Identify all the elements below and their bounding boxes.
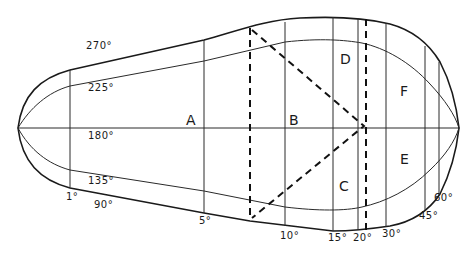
label-meridian-30: 30° xyxy=(382,229,401,239)
label-meridian-60: 60° xyxy=(434,193,453,203)
region-f-label: F xyxy=(400,84,408,98)
diagram-lines xyxy=(0,0,476,254)
label-meridian-20: 20° xyxy=(353,233,372,243)
polar-diagram: 270° 225° 180° 135° 90° 1° 5° 10° 15° 20… xyxy=(0,0,476,254)
region-b-label: B xyxy=(289,113,299,127)
inner-curve xyxy=(18,40,459,210)
region-e-label: E xyxy=(400,152,409,166)
label-meridian-10: 10° xyxy=(280,231,299,241)
label-meridian-15: 15° xyxy=(328,233,347,243)
label-90: 90° xyxy=(94,200,113,210)
label-135: 135° xyxy=(88,176,114,186)
region-a-label: A xyxy=(186,113,196,127)
region-c-label: C xyxy=(339,179,349,193)
label-180: 180° xyxy=(88,131,114,141)
label-225: 225° xyxy=(88,83,114,93)
label-meridian-5: 5° xyxy=(199,216,211,226)
label-meridian-45: 45° xyxy=(419,211,438,221)
label-270: 270° xyxy=(86,41,112,51)
label-meridian-1: 1° xyxy=(66,192,78,202)
region-d-label: D xyxy=(340,52,351,66)
outer-curve xyxy=(18,17,459,231)
